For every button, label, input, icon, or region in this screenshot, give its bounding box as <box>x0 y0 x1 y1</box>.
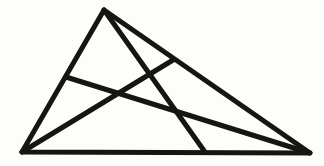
cevian-apex-to-base <box>104 10 205 152</box>
figure-canvas <box>0 0 324 166</box>
cevian-bottomleft-to-rightside <box>22 60 173 152</box>
main-triangle-outline <box>22 10 310 153</box>
cevian-leftside-to-bottom-right <box>66 77 310 153</box>
geometry-figure <box>0 0 324 166</box>
